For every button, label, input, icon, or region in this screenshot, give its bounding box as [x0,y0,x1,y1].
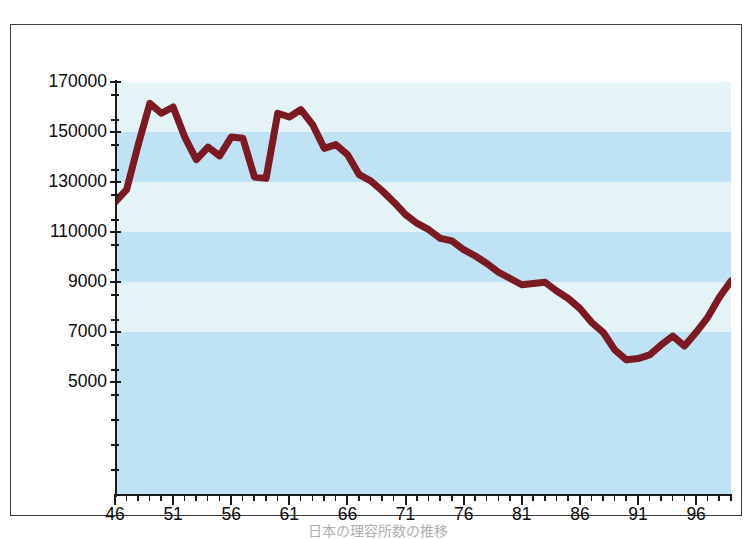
y-axis-tick-label: 150000 [19,123,107,141]
y-axis-minor-tick [111,319,119,321]
y-axis-tick-label: 9000 [19,273,107,291]
y-axis-minor-tick [111,444,119,446]
y-axis-tick-label: 170000 [19,73,107,91]
x-axis-minor-tick [474,494,476,501]
x-axis-minor-tick [323,494,325,501]
x-axis-tick-label: 51 [163,506,182,524]
x-axis-minor-tick [416,494,418,501]
x-axis-minor-tick [393,494,395,501]
y-axis-minor-tick [111,119,119,121]
y-axis-minor-tick [111,294,119,296]
x-axis-minor-tick [602,494,604,501]
x-axis-minor-tick [532,494,534,501]
x-axis-minor-tick [591,494,593,501]
x-axis-minor-tick [567,494,569,501]
y-axis-minor-tick [111,369,119,371]
x-axis-minor-tick [149,494,151,501]
x-axis-minor-tick [207,494,209,501]
x-axis-tick-label: 86 [570,506,589,524]
x-axis-minor-tick [381,494,383,501]
x-axis-tick-label: 66 [338,506,357,524]
y-axis-tick-label: 7000 [19,323,107,341]
x-axis-minor-tick [184,494,186,501]
x-axis-minor-tick [451,494,453,501]
x-axis-minor-tick [498,494,500,501]
x-axis-tick-label: 96 [686,506,705,524]
x-axis-minor-tick [614,494,616,501]
x-axis-minor-tick [439,494,441,501]
x-axis-minor-tick [242,494,244,501]
x-axis-tick-label: 56 [221,506,240,524]
x-axis-tick-label: 91 [628,506,647,524]
y-axis-labels: 170000150000130000110000900070005000 [11,25,107,517]
x-axis-tick-label: 81 [512,506,531,524]
x-axis-minor-tick [649,494,651,501]
x-axis-minor-tick [358,494,360,501]
x-axis-minor-tick [509,494,511,501]
x-axis-minor-tick [160,494,162,501]
y-axis-minor-tick [111,394,119,396]
series-path-facilities [115,103,731,360]
y-axis-major-tick [110,381,121,383]
plot-area [115,82,731,495]
x-axis-minor-tick [265,494,267,501]
x-axis-minor-tick [660,494,662,501]
y-axis-minor-tick [111,219,119,221]
x-axis-minor-tick [195,494,197,501]
x-axis-minor-tick [684,494,686,501]
series-line-chart [115,82,731,495]
y-axis-major-tick [110,131,121,133]
x-axis-minor-tick [370,494,372,501]
y-axis-tick-label: 110000 [19,223,107,241]
y-axis-line [115,80,117,497]
y-axis-major-tick [110,331,121,333]
x-axis-tick-label: 76 [454,506,473,524]
x-axis-minor-tick [672,494,674,501]
y-axis-minor-tick [111,269,119,271]
y-axis-minor-tick [111,344,119,346]
x-axis-minor-tick [277,494,279,501]
x-axis-minor-tick [544,494,546,501]
y-axis-major-tick [110,231,121,233]
x-axis-minor-tick [300,494,302,501]
x-axis-minor-tick [335,494,337,501]
figure-frame: 170000150000130000110000900070005000 465… [10,24,742,516]
x-axis-minor-tick [718,494,720,501]
y-axis-minor-tick [111,144,119,146]
x-axis-tick-label: 46 [105,506,124,524]
x-axis-minor-tick [707,494,709,501]
x-axis-tick-label: 61 [280,506,299,524]
y-axis-major-tick [110,281,121,283]
y-axis-minor-tick [111,244,119,246]
x-axis-minor-tick [486,494,488,501]
x-axis-minor-tick [137,494,139,501]
x-axis-minor-tick [126,494,128,501]
x-axis-minor-tick [428,494,430,501]
x-axis-minor-tick [312,494,314,501]
y-axis-minor-tick [111,469,119,471]
y-axis-tick-label: 5000 [19,373,107,391]
y-axis-major-tick [110,81,121,83]
x-axis-minor-tick [556,494,558,501]
y-axis-minor-tick [111,169,119,171]
x-axis-minor-tick [625,494,627,501]
y-axis-major-tick [110,181,121,183]
x-axis-minor-tick [730,494,732,501]
y-axis-minor-tick [111,419,119,421]
x-axis-minor-tick [219,494,221,501]
y-axis-minor-tick [111,94,119,96]
x-axis-tick-label: 71 [396,506,415,524]
x-axis-minor-tick [253,494,255,501]
figure-caption: 日本の理容所数の推移 [0,524,756,538]
y-axis-tick-label: 130000 [19,173,107,191]
y-axis-minor-tick [111,194,119,196]
